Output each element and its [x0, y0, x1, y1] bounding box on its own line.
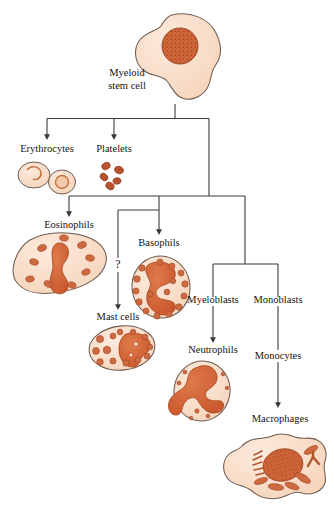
cell-macrophages: [224, 434, 327, 499]
cell-mast-cells: [87, 323, 157, 374]
erythrocyte-2-concavity: [56, 176, 69, 189]
lineage-diagram-canvas: Myeloid stem cell Erythrocytes Platelets…: [0, 0, 334, 519]
label-myeloblasts: Myeloblasts: [187, 294, 238, 305]
platelet-4: [112, 177, 121, 185]
label-basophils: Basophils: [138, 237, 179, 248]
cell-myeloid-stem-cell: [136, 14, 221, 99]
platelet-1: [101, 161, 112, 171]
label-platelets: Platelets: [96, 143, 132, 154]
mast-cell-vacuole-1: [134, 342, 138, 346]
erythrocyte-1-body: [18, 162, 50, 188]
platelet-2: [114, 165, 125, 175]
label-stem-cell-line2: stem cell: [108, 80, 146, 91]
mast-cell-vacuole-2: [129, 353, 132, 356]
cell-erythrocytes: [18, 162, 76, 194]
label-uncertain-marker: ?: [115, 257, 120, 271]
label-mast-cells: Mast cells: [97, 311, 140, 322]
label-erythrocytes: Erythrocytes: [20, 143, 74, 154]
label-stem-cell-line1: Myeloid: [109, 67, 145, 78]
cell-eosinophils: [13, 233, 106, 294]
label-macrophages: Macrophages: [252, 413, 309, 424]
cell-platelets: [99, 161, 125, 191]
label-monocytes: Monocytes: [255, 350, 302, 361]
platelet-3: [99, 172, 110, 182]
label-monoblasts: Monoblasts: [253, 294, 302, 305]
label-eosinophils: Eosinophils: [44, 219, 94, 230]
cell-neutrophils: [168, 357, 234, 426]
hematopoiesis-diagram: Myeloid stem cell Erythrocytes Platelets…: [0, 0, 334, 519]
label-neutrophils: Neutrophils: [188, 344, 238, 355]
stem-cell-nucleus: [162, 28, 198, 64]
